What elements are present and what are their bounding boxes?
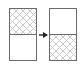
right-top-empty-section bbox=[50, 9, 76, 35]
right-bottom-hatched-section bbox=[50, 35, 76, 61]
left-top-hatched-section bbox=[10, 9, 36, 35]
right-panel bbox=[49, 8, 77, 61]
left-bottom-empty-section bbox=[10, 35, 36, 61]
arrow-right-icon bbox=[39, 31, 48, 39]
left-panel bbox=[9, 8, 37, 61]
